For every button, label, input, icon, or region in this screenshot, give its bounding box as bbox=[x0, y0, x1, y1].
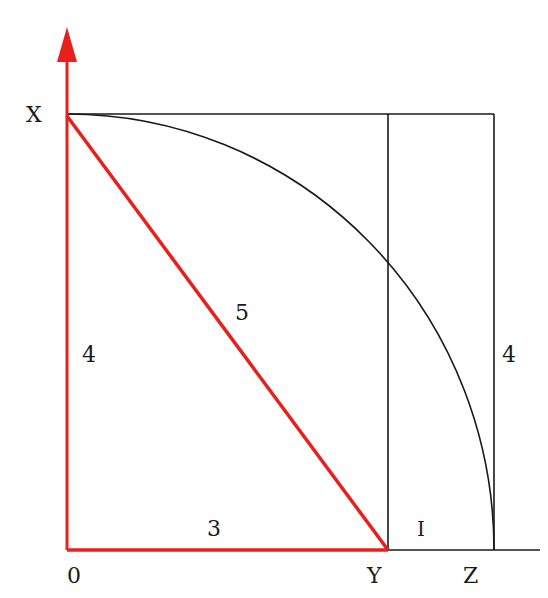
label-origin: 0 bbox=[67, 563, 81, 588]
label-hypotenuse: 5 bbox=[235, 300, 249, 325]
label-vertical-leg: 4 bbox=[82, 342, 96, 367]
label-y: Y bbox=[366, 563, 382, 588]
arrow-up-icon bbox=[57, 27, 77, 62]
label-x: X bbox=[26, 102, 42, 127]
label-base: 3 bbox=[207, 516, 221, 541]
label-right-side: 4 bbox=[502, 342, 516, 367]
quarter-arc bbox=[67, 114, 494, 550]
triangle-hypotenuse bbox=[67, 116, 388, 550]
diagram-canvas: X 0 Y Z 4 5 3 I 4 bbox=[0, 0, 548, 598]
label-gap: I bbox=[417, 517, 425, 541]
label-z: Z bbox=[463, 563, 478, 588]
